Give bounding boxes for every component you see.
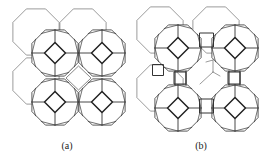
sodalite-cage [32,79,78,125]
cube-front-face [200,33,214,47]
zeolite-framework-figure [0,0,266,164]
alpha-cage-edge [200,72,213,84]
double-four-ring-left [174,72,186,84]
panel-a-sodalite-packing [13,9,125,125]
cube-front-face [153,65,164,76]
double-four-ring-right [228,72,240,84]
sodalite-cage [79,79,125,125]
cube-front-face [228,72,240,84]
cube-front-face [200,99,214,113]
alpha-cage-edge [206,60,213,62]
double-four-ring-bottom [200,99,214,113]
sodalite-cage [32,30,78,76]
double-four-ring-top [200,33,214,47]
panel-b-caption: (b) [186,140,216,151]
sodalite-cage [212,85,258,131]
double-four-ring-back-left [153,65,164,76]
alpha-cage-edge [213,72,220,76]
panel-a-caption: (a) [52,140,82,151]
sodalite-cage [212,25,258,71]
cube-front-face [174,72,186,84]
panel-b-lta-framework [137,7,258,131]
sodalite-cage [155,85,201,131]
sodalite-cage [79,30,125,76]
